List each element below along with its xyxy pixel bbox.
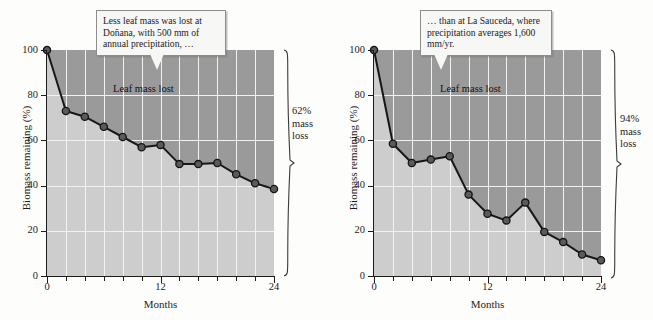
y-axis-line (46, 50, 47, 277)
y-tick-label: 100 (0, 45, 38, 55)
data-point (138, 144, 145, 151)
callout-donana: Less leaf mass was lost at Doñana, with … (96, 10, 226, 56)
mass-loss-bracket (608, 48, 624, 280)
x-tick-minor (469, 277, 470, 281)
data-point (446, 153, 453, 160)
x-tick-minor (123, 277, 124, 281)
x-tick-label: 0 (44, 281, 49, 292)
panel-donana: 020406080100 01224 Months Biomass remain… (0, 0, 326, 320)
x-tick-minor (450, 277, 451, 281)
y-tick-label: 40 (0, 180, 38, 190)
leaf-mass-lost-label: Leaf mass lost (113, 83, 174, 94)
callout-tail-icon (150, 54, 164, 70)
y-tick (41, 186, 46, 187)
data-point (233, 171, 240, 178)
data-point (270, 185, 277, 192)
data-point (195, 161, 202, 168)
mass-loss-word-loss: loss (292, 130, 313, 143)
data-point (389, 140, 396, 147)
y-tick (41, 50, 46, 51)
x-tick-minor (217, 277, 218, 281)
y-tick (41, 276, 46, 277)
data-line (374, 50, 601, 260)
y-tick (368, 276, 373, 277)
data-point (157, 141, 164, 148)
x-tick-minor (563, 277, 564, 281)
mass-loss-word-mass: mass (292, 118, 313, 131)
y-tick (368, 186, 373, 187)
data-point (427, 156, 434, 163)
x-tick-minor (104, 277, 105, 281)
mass-loss-word-mass: mass (620, 126, 641, 139)
y-tick (368, 231, 373, 232)
x-tick-minor (179, 277, 180, 281)
y-axis-title: Biomass remaining (%) (347, 88, 359, 228)
mass-loss-bracket (281, 48, 297, 278)
data-point (408, 159, 415, 166)
x-tick-minor (236, 277, 237, 281)
x-tick-label: 24 (269, 281, 280, 292)
y-tick-label: 80 (327, 90, 365, 100)
x-tick-minor (66, 277, 67, 281)
data-point (597, 257, 604, 264)
data-point (541, 228, 548, 235)
x-tick-minor (85, 277, 86, 281)
data-point (100, 123, 107, 130)
y-tick (368, 95, 373, 96)
y-tick-label: 80 (0, 90, 38, 100)
y-tick-label: 60 (0, 135, 38, 145)
x-tick-label: 12 (155, 281, 166, 292)
data-point (560, 239, 567, 246)
two-panel-decomposition-figure: 020406080100 01224 Months Biomass remain… (0, 0, 653, 320)
x-tick-label: 24 (596, 281, 607, 292)
data-point (579, 251, 586, 258)
y-tick-label: 0 (0, 271, 38, 281)
data-point (503, 217, 510, 224)
y-tick-label: 20 (327, 225, 365, 235)
data-line (47, 50, 274, 189)
x-tick-minor (412, 277, 413, 281)
data-point (119, 133, 126, 140)
data-point (252, 180, 259, 187)
x-tick-minor (582, 277, 583, 281)
mass-loss-percent: 62% (292, 105, 313, 118)
mass-loss-word-loss: loss (620, 138, 641, 151)
y-tick (41, 231, 46, 232)
data-point (62, 107, 69, 114)
mass-loss-percent: 94% (620, 113, 641, 126)
data-point (465, 191, 472, 198)
x-axis-title: Months (47, 298, 274, 310)
x-tick-minor (255, 277, 256, 281)
y-tick (41, 140, 46, 141)
x-tick-minor (393, 277, 394, 281)
callout-la-sauceda: … than at La Sauceda, where precipitatio… (420, 10, 552, 56)
y-tick (368, 50, 373, 51)
data-point (484, 210, 491, 217)
data-point (81, 113, 88, 120)
callout-tail-icon (434, 54, 448, 70)
y-axis-line (373, 50, 374, 277)
y-tick-label: 60 (327, 135, 365, 145)
x-tick-minor (506, 277, 507, 281)
y-tick-label: 20 (0, 225, 38, 235)
x-axis-title: Months (374, 298, 601, 310)
x-tick-minor (431, 277, 432, 281)
mass-loss-annotation: 62% mass loss (292, 105, 313, 143)
y-tick-label: 40 (327, 180, 365, 190)
panel-la-sauceda: 020406080100 01224 Months Biomass remain… (327, 0, 653, 320)
data-point (522, 199, 529, 206)
data-point (214, 159, 221, 166)
y-axis-title: Biomass remaining (%) (20, 88, 32, 228)
x-tick-label: 0 (371, 281, 376, 292)
y-tick-label: 100 (327, 45, 365, 55)
x-tick-minor (142, 277, 143, 281)
x-tick-minor (198, 277, 199, 281)
x-tick-minor (544, 277, 545, 281)
data-point (176, 161, 183, 168)
y-tick-label: 0 (327, 271, 365, 281)
x-tick-minor (525, 277, 526, 281)
leaf-mass-lost-label: Leaf mass lost (440, 83, 501, 94)
y-tick (41, 95, 46, 96)
y-tick (368, 140, 373, 141)
x-tick-label: 12 (482, 281, 493, 292)
